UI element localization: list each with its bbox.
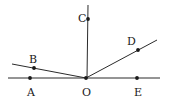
point-dot-e xyxy=(135,76,139,80)
point-dot-a xyxy=(28,76,32,80)
point-label-e: E xyxy=(134,87,142,98)
point-label-c: C xyxy=(78,13,86,24)
point-label-o: O xyxy=(82,87,91,98)
point-dot-d xyxy=(136,48,140,52)
vertical-ray-OC xyxy=(87,5,88,78)
point-label-b: B xyxy=(29,54,37,65)
point-label-d: D xyxy=(127,36,136,47)
point-label-a: A xyxy=(27,87,35,98)
geometry-figure: A B C D E O xyxy=(0,0,170,103)
point-dot-c xyxy=(86,17,90,21)
point-dot-b xyxy=(32,66,36,70)
ray-OB xyxy=(12,64,86,78)
ray-OD xyxy=(86,40,157,78)
point-dot-o xyxy=(84,76,88,80)
